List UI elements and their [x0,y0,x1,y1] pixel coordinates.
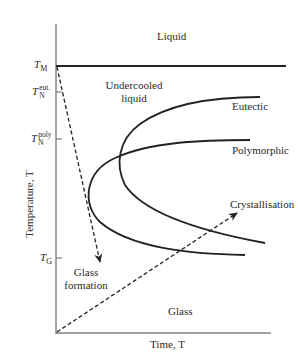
region-liquid-label: Liquid [157,31,186,42]
y-axis-label: Temperature, T [23,144,35,264]
crystallisation-label: Crystallisation [230,199,294,210]
label-tm: TM [34,59,47,73]
polymorphic-label: Polymorphic [232,145,289,156]
glass-formation-label: Glass formation [62,266,110,292]
x-axis-label: Time, T [150,339,185,350]
label-tg: TG [40,252,52,266]
region-glass-label: Glass [168,306,192,317]
label-tn-eut: Teut.N [32,84,50,100]
glass-formation-arrow [57,67,100,262]
region-undercooled-liquid-label: Undercooled liquid [104,79,164,105]
polymorphic-curve [89,140,250,255]
ttt-diagram-canvas [0,0,298,358]
eutectic-label: Eutectic [232,101,268,112]
eutectic-curve [120,97,265,243]
